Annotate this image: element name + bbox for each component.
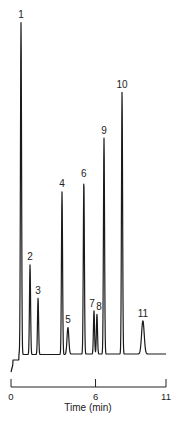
x-tick-label: 6 — [93, 391, 98, 402]
peak-label: 3 — [35, 285, 41, 296]
peak-label: 11 — [138, 308, 149, 319]
peak-label: 4 — [59, 178, 65, 189]
chromatogram-chart: 1234567891011 0611 Time (min) — [0, 0, 178, 423]
x-axis: 0611 — [8, 379, 171, 402]
peak-label: 6 — [81, 168, 87, 179]
peak-label: 8 — [96, 301, 102, 312]
peak-label: 5 — [65, 314, 71, 325]
x-tick-label: 11 — [161, 391, 171, 402]
peak-label: 1 — [18, 9, 24, 20]
signal-line — [11, 23, 166, 372]
x-axis-label: Time (min) — [64, 402, 111, 413]
peak-label: 9 — [101, 125, 107, 136]
chromatogram-trace — [11, 23, 166, 372]
peak-label: 7 — [89, 298, 95, 309]
peak-label: 10 — [116, 79, 128, 90]
peak-label: 2 — [27, 251, 33, 262]
x-tick-label: 0 — [8, 391, 13, 402]
